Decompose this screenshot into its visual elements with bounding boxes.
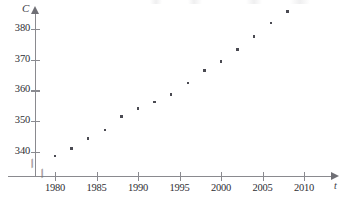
- y-tick-label: 370: [0, 53, 30, 64]
- data-point: [137, 107, 140, 110]
- x-tick-mark: [97, 172, 98, 181]
- y-tick-label: 340: [0, 145, 30, 156]
- y-axis-label: C: [22, 2, 29, 14]
- y-tick-mark: [31, 90, 40, 91]
- data-point: [286, 10, 289, 13]
- data-point: [104, 129, 107, 132]
- x-tick-mark: [55, 172, 56, 181]
- y-axis-break-icon: //: [27, 158, 34, 169]
- top-cropped-title-remnant: [150, 0, 340, 4]
- y-tick-label: 360: [0, 83, 30, 94]
- x-tick-mark: [263, 172, 264, 181]
- y-tick-mark: [31, 29, 40, 30]
- data-point: [203, 69, 206, 72]
- data-point: [70, 147, 73, 150]
- x-tick-label: 1985: [77, 182, 117, 193]
- x-tick-mark: [304, 172, 305, 181]
- data-point: [236, 48, 239, 51]
- data-point: [54, 155, 57, 158]
- data-point: [270, 22, 273, 25]
- x-axis-label: t: [334, 180, 337, 191]
- x-tick-label: 2005: [243, 182, 283, 193]
- x-axis-arrow-icon: [331, 172, 339, 180]
- x-tick-label: 2000: [201, 182, 241, 193]
- y-tick-mark: [31, 152, 40, 153]
- data-point: [187, 82, 190, 85]
- x-axis-break-icon: //: [37, 168, 44, 179]
- data-point: [153, 101, 156, 104]
- data-point: [253, 35, 256, 38]
- data-point: [87, 137, 90, 140]
- x-tick-label: 1980: [35, 182, 75, 193]
- x-tick-label: 1990: [118, 182, 158, 193]
- y-tick-mark: [31, 60, 40, 61]
- y-tick-label: 350: [0, 114, 30, 125]
- x-tick-mark: [138, 172, 139, 181]
- x-tick-label: 1995: [160, 182, 200, 193]
- y-axis-arrow-icon: [31, 6, 39, 14]
- x-tick-mark: [180, 172, 181, 181]
- data-point: [220, 60, 223, 63]
- y-tick-label: 380: [0, 22, 30, 33]
- data-point: [170, 93, 173, 96]
- x-axis-line: [8, 176, 333, 177]
- y-tick-mark: [31, 121, 40, 122]
- co2-scatter-chart: C t // // 340350360370380 19801985199019…: [0, 0, 347, 201]
- x-tick-label: 2010: [284, 182, 324, 193]
- data-point: [120, 115, 123, 118]
- x-tick-mark: [221, 172, 222, 181]
